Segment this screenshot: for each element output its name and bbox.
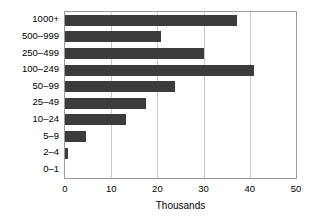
y-tick-label-5–9: 5–9 — [0, 131, 59, 141]
y-tick-label-0–1: 0–1 — [0, 164, 59, 174]
bar-row — [65, 65, 296, 76]
bar-row — [65, 15, 296, 26]
plot-area — [64, 11, 297, 179]
bar-row — [65, 98, 296, 109]
y-tick-label-100–249: 100–249 — [0, 64, 59, 74]
y-tick-label-2–4: 2–4 — [0, 147, 59, 157]
bar-row — [65, 31, 296, 42]
bar-chart: 0–12–45–910–2425–4950–99100–249250–49950… — [0, 0, 314, 224]
bar-row — [65, 114, 296, 125]
bar-25–49 — [65, 98, 146, 109]
x-axis-title: Thousands — [64, 200, 297, 212]
y-tick-label-1000+: 1000+ — [0, 14, 59, 24]
bar-50–99 — [65, 81, 175, 92]
y-tick-label-10–24: 10–24 — [0, 114, 59, 124]
bar-5–9 — [65, 131, 86, 142]
bar-row — [65, 81, 296, 92]
bar-2–4 — [65, 148, 68, 159]
y-tick-label-50–99: 50–99 — [0, 81, 59, 91]
x-tick-label-20: 20 — [152, 183, 163, 195]
bar-100–249 — [65, 65, 254, 76]
x-tick-label-0: 0 — [62, 183, 67, 195]
y-axis-tick-labels: 0–12–45–910–2425–4950–99100–249250–49950… — [0, 11, 59, 179]
x-tick-label-10: 10 — [106, 183, 117, 195]
bar-250–499 — [65, 48, 204, 59]
bar-10–24 — [65, 114, 126, 125]
bar-row — [65, 164, 296, 175]
x-tick-label-50: 50 — [291, 183, 302, 195]
bar-1000+ — [65, 15, 237, 26]
x-tick-label-40: 40 — [245, 183, 256, 195]
bars-layer — [65, 12, 296, 178]
x-tick-label-30: 30 — [198, 183, 209, 195]
y-tick-label-250–499: 250–499 — [0, 48, 59, 58]
bar-500–999 — [65, 31, 161, 42]
bar-row — [65, 48, 296, 59]
bar-row — [65, 131, 296, 142]
bar-row — [65, 148, 296, 159]
x-axis-tick-labels: 01020304050 — [0, 183, 314, 197]
y-tick-label-500–999: 500–999 — [0, 31, 59, 41]
y-tick-label-25–49: 25–49 — [0, 97, 59, 107]
